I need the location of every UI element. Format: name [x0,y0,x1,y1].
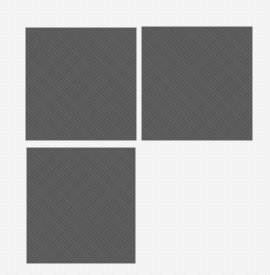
tile-top-left [26,28,136,140]
tile-bottom-left [27,148,135,263]
tile-top-right [142,27,252,140]
canvas-background [0,0,270,275]
